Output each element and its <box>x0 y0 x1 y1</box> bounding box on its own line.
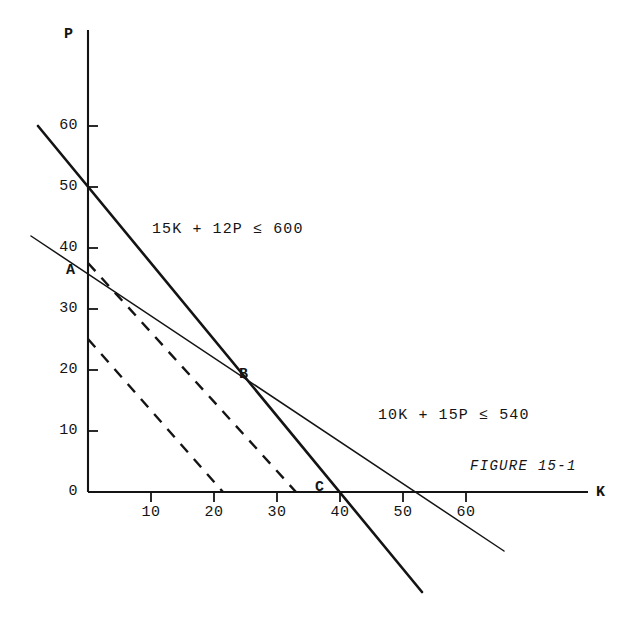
x-tick-label-30: 30 <box>262 504 292 521</box>
x-tick-label-20: 20 <box>199 504 229 521</box>
y-tick-label-40: 40 <box>44 239 78 256</box>
y-tick-label-30: 30 <box>44 300 78 317</box>
constraint-annotation-1: 15K + 12P ≤ 600 <box>152 221 304 238</box>
x-tick-label-10: 10 <box>136 504 166 521</box>
isoprofit-line-upper <box>88 263 296 492</box>
point-label-a: A <box>66 262 75 279</box>
figure-15-1: P K 60 50 40 30 20 10 0 10 20 30 40 50 6… <box>0 0 620 622</box>
y-tick-marks <box>88 126 98 431</box>
plot-canvas <box>0 0 620 622</box>
y-tick-label-10: 10 <box>44 422 78 439</box>
x-tick-label-50: 50 <box>388 504 418 521</box>
y-tick-label-0: 0 <box>44 483 78 500</box>
x-axis-title: K <box>596 484 605 501</box>
x-tick-label-60: 60 <box>451 504 481 521</box>
y-tick-label-20: 20 <box>44 361 78 378</box>
y-tick-label-50: 50 <box>44 178 78 195</box>
isoprofit-line-lower <box>88 339 223 492</box>
y-axis-title: P <box>64 26 73 43</box>
point-label-c: C <box>315 479 324 496</box>
point-label-b: B <box>239 366 248 383</box>
constraint-annotation-2: 10K + 15P ≤ 540 <box>378 407 530 424</box>
figure-caption: FIGURE 15-1 <box>470 458 577 474</box>
x-tick-label-40: 40 <box>325 504 355 521</box>
y-tick-label-60: 60 <box>44 117 78 134</box>
constraint-line-15k-12p <box>38 126 422 592</box>
